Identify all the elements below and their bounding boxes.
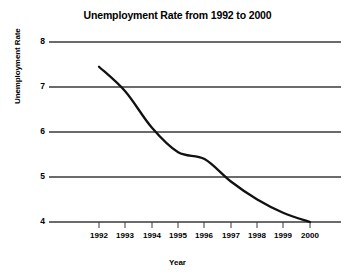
series-line-unemployment-rate: [99, 67, 310, 222]
chart-container: Unemployment Rate from 1992 to 2000 Unem…: [0, 0, 355, 280]
plot-area: [0, 0, 355, 280]
x-axis-ticks: [99, 222, 310, 228]
gridlines: [49, 42, 341, 222]
